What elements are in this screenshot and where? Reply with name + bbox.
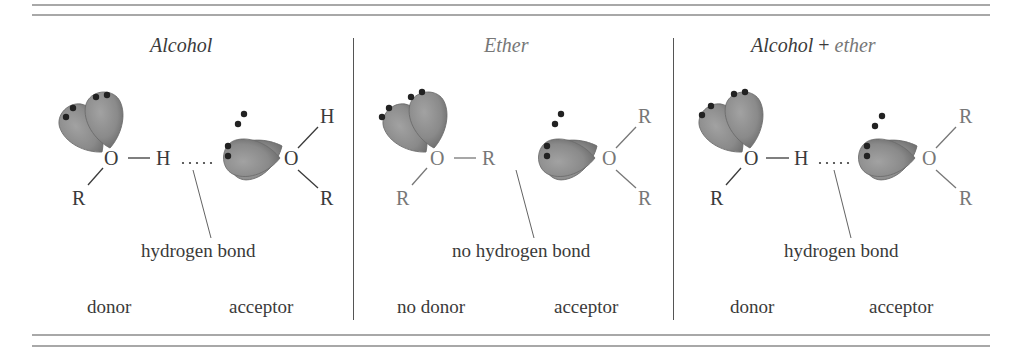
r-group: R (72, 188, 85, 208)
oxygen-atom: O (744, 148, 758, 168)
acceptor-label: acceptor (554, 296, 618, 318)
acceptor-label: acceptor (869, 296, 933, 318)
lone-pair-lobes-icon (674, 0, 1019, 362)
lone-pair-lobes-icon (0, 0, 353, 362)
oxygen-atom: O (922, 148, 936, 168)
r-group: R (396, 188, 409, 208)
oxygen-atom: O (284, 148, 298, 168)
hydrogen-atom: H (156, 148, 170, 168)
donor-label: donor (87, 296, 131, 318)
r-group: R (959, 188, 972, 208)
interaction-label: no hydrogen bond (452, 240, 590, 262)
r-group: R (320, 188, 333, 208)
r-group: R (959, 106, 972, 126)
panel-ether: Ether O R R O R R no hydrogen bond no do… (354, 0, 673, 362)
no-donor-label: no donor (397, 296, 465, 318)
oxygen-atom: O (602, 148, 616, 168)
hydrogen-atom: H (794, 148, 808, 168)
acceptor-label: acceptor (229, 296, 293, 318)
r-group: R (482, 148, 495, 168)
panel-alcohol: Alcohol O H R O H R hydrogen bond donor … (0, 0, 353, 362)
panel-alcohol-plus-ether: Alcohol + ether O H R O R R hydrogen bon… (674, 0, 1019, 362)
oxygen-atom: O (430, 148, 444, 168)
interaction-label: hydrogen bond (141, 240, 256, 262)
oxygen-atom: O (104, 148, 118, 168)
r-group: R (638, 188, 651, 208)
r-group: R (638, 106, 651, 126)
hydrogen-atom: H (320, 106, 334, 126)
interaction-label: hydrogen bond (784, 240, 899, 262)
r-group: R (710, 188, 723, 208)
donor-label: donor (730, 296, 774, 318)
